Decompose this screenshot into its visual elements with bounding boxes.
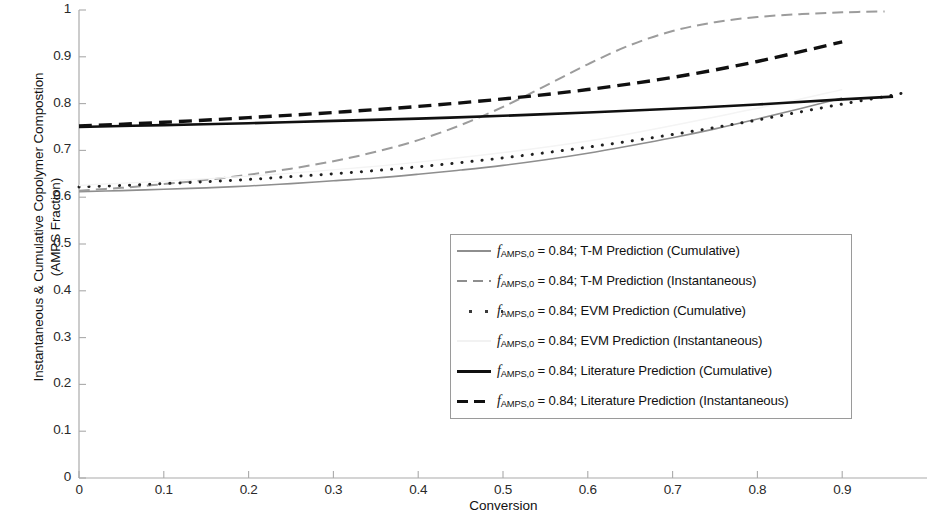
legend-entry[interactable]: fAMPS,0 = 0.84; Literature Prediction (C… — [451, 356, 853, 386]
legend-key-glyph — [457, 400, 491, 403]
legend-entry[interactable]: fAMPS,0 = 0.84; T-M Prediction (Instanta… — [451, 266, 853, 296]
legend-key-glyph — [457, 340, 491, 342]
legend-key-icon — [451, 236, 497, 266]
legend-entry[interactable]: fAMPS,0 = 0.84; EVM Prediction (Instanta… — [451, 326, 853, 356]
figure: Instantaneous & Cumulative Copolymer Com… — [0, 0, 927, 518]
legend-key-icon — [451, 356, 497, 386]
legend-key-icon — [451, 296, 497, 326]
legend-entry[interactable]: fAMPS,0 = 0.84; Literature Prediction (I… — [451, 386, 853, 416]
legend-key-glyph — [457, 250, 491, 252]
legend-key-glyph — [457, 370, 491, 373]
legend-key-glyph — [457, 280, 491, 282]
legend-entry-label: fAMPS,0 = 0.84; T-M Prediction (Instanta… — [497, 273, 756, 289]
legend-key-icon — [451, 386, 497, 416]
series-line-6 — [79, 42, 842, 126]
legend-entry-label: fAMPS,0 = 0.84; T-M Prediction (Cumulati… — [497, 243, 740, 259]
series-line-3 — [79, 93, 902, 187]
legend-key-glyph — [469, 310, 503, 313]
legend-key-icon — [451, 266, 497, 296]
legend-entry[interactable]: fAMPS,0 = 0.84; T-M Prediction (Cumulati… — [451, 236, 853, 266]
legend-entry-label: fAMPS,0 = 0.84; EVM Prediction (Cumulati… — [497, 303, 746, 319]
legend: fAMPS,0 = 0.84; T-M Prediction (Cumulati… — [450, 234, 852, 419]
legend-entry-label: fAMPS,0 = 0.84; Literature Prediction (C… — [497, 363, 772, 379]
series-line-1 — [79, 98, 842, 192]
legend-key-icon — [451, 326, 497, 356]
legend-entry-label: fAMPS,0 = 0.84; Literature Prediction (I… — [497, 393, 788, 409]
legend-entry-label: fAMPS,0 = 0.84; EVM Prediction (Instanta… — [497, 333, 762, 349]
legend-entry[interactable]: fAMPS,0 = 0.84; EVM Prediction (Cumulati… — [451, 296, 853, 326]
